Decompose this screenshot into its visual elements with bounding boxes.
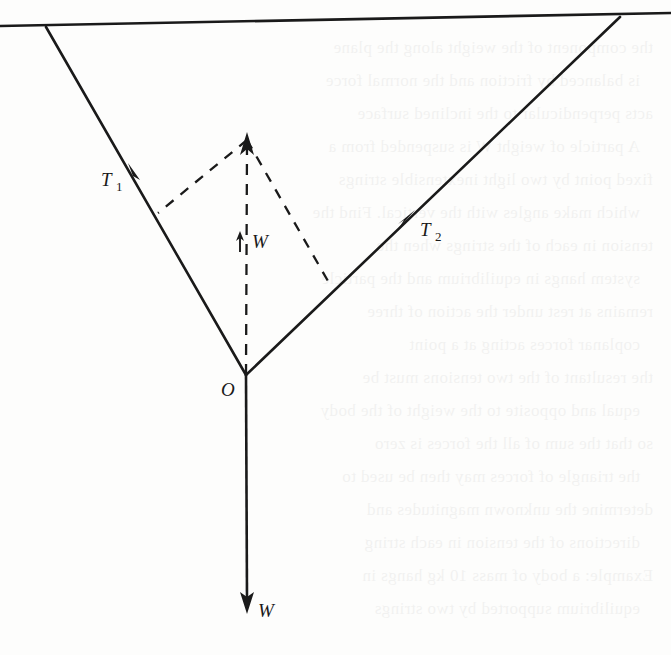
left-string-line	[46, 27, 246, 375]
physics-force-diagram: the component of the weight along the pl…	[0, 0, 671, 655]
parallelogram-edge-upper-left	[158, 140, 247, 213]
label-weight-vector: W	[258, 600, 276, 621]
ceiling-support-line	[0, 13, 671, 26]
label-tension-left-symbol: T	[101, 169, 113, 190]
parallelogram-edge-upper-right	[247, 140, 332, 288]
resultant-vector-dashed-shaft	[246, 146, 247, 375]
label-tension-left: T 1	[101, 169, 123, 194]
label-tension-right-symbol: T	[420, 219, 432, 240]
force-diagram-canvas: T 1 T 2 W W O	[0, 0, 671, 655]
right-string-line	[246, 17, 620, 375]
label-tension-right-subscript: 2	[435, 229, 442, 244]
label-resultant-weight: W	[252, 231, 270, 252]
label-tension-right: T 2	[420, 219, 442, 244]
label-origin-point: O	[221, 379, 235, 400]
weight-vector-shaft	[246, 375, 247, 600]
label-tension-left-subscript: 1	[116, 179, 123, 194]
